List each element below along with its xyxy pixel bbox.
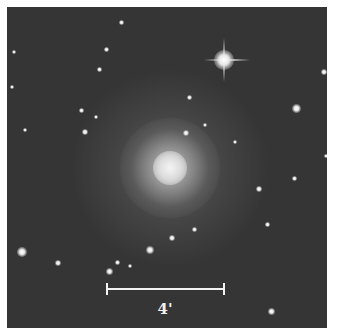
star <box>106 268 113 275</box>
star <box>192 227 197 232</box>
scale-bar <box>106 283 225 295</box>
star <box>187 95 192 100</box>
star <box>233 140 237 144</box>
star <box>17 247 27 257</box>
star <box>97 67 102 72</box>
star <box>119 20 124 25</box>
star <box>203 123 207 127</box>
astronomical-image <box>7 7 327 328</box>
star <box>292 176 297 181</box>
star <box>104 47 109 52</box>
scale-bar-right-tick <box>223 283 225 295</box>
star <box>324 154 327 158</box>
star <box>256 186 262 192</box>
star <box>115 260 120 265</box>
star <box>183 130 189 136</box>
star <box>146 246 154 254</box>
star <box>12 50 16 54</box>
galaxy-core <box>153 151 187 185</box>
star <box>128 264 132 268</box>
star <box>268 308 275 315</box>
scale-bar-label: 4' <box>150 300 180 318</box>
scale-bar-line <box>106 288 225 290</box>
star <box>169 235 175 241</box>
star <box>82 129 88 135</box>
bright-star <box>214 50 234 70</box>
star <box>79 108 84 113</box>
star <box>321 69 327 75</box>
star <box>94 115 98 119</box>
star <box>265 222 270 227</box>
galaxy-inner-halo <box>120 118 220 218</box>
star <box>292 104 301 113</box>
star <box>55 260 61 266</box>
star <box>10 85 14 89</box>
star <box>23 128 27 132</box>
